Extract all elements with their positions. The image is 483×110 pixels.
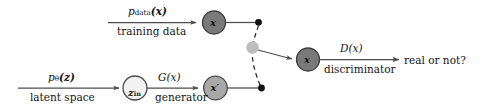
p-symbol-latent: p	[48, 71, 55, 83]
latent-input-node-label: zin	[128, 83, 141, 99]
latent-distribution-label: pθ(z)	[48, 72, 75, 83]
gan-diagram: pdata(x) training data x pθ(z) latent sp…	[0, 0, 483, 110]
discriminator-output-label: real or not?	[404, 55, 466, 66]
z-subscript: in	[134, 90, 141, 98]
junction-to-discriminator-arrow	[258, 50, 292, 59]
latent-space-label: latent space	[30, 92, 95, 103]
fake-branch-dot	[258, 85, 265, 92]
generator-function-label: G(x)	[158, 72, 181, 83]
p-argument-z: (z)	[59, 71, 75, 83]
fake-sample-node-label: x′	[211, 83, 220, 93]
discriminator-function-label: D(x)	[340, 43, 363, 54]
real-branch-dot	[255, 19, 262, 26]
p-symbol: p	[128, 5, 135, 17]
generator-label: generator	[155, 92, 208, 103]
discriminator-input-node-label: x	[304, 55, 310, 65]
real-sample-node-label: x	[210, 18, 216, 28]
training-data-distribution-label: pdata(x)	[128, 6, 167, 17]
p-subscript: data	[135, 8, 151, 17]
discriminator-label: discriminator	[324, 64, 396, 75]
selector-dashed-path	[252, 26, 261, 88]
selector-junction-node	[246, 41, 258, 53]
p-argument: (x)	[151, 5, 167, 17]
training-data-label: training data	[117, 26, 186, 37]
